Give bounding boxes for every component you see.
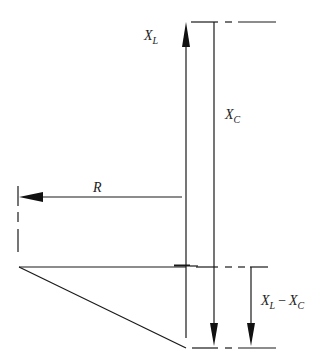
impedance-triangle: [19, 266, 198, 349]
label-r: R: [92, 180, 102, 195]
diff-phasor-arrow: [247, 267, 255, 346]
label-xl-minus-xc: XL−XC: [260, 293, 305, 311]
label-xc: XC: [224, 107, 241, 125]
xl-phasor-arrow: [182, 22, 190, 338]
phasor-diagram: XL XC R XL−XC: [0, 0, 324, 364]
xc-phasor-arrow: [210, 22, 218, 346]
label-xl: XL: [143, 28, 159, 46]
